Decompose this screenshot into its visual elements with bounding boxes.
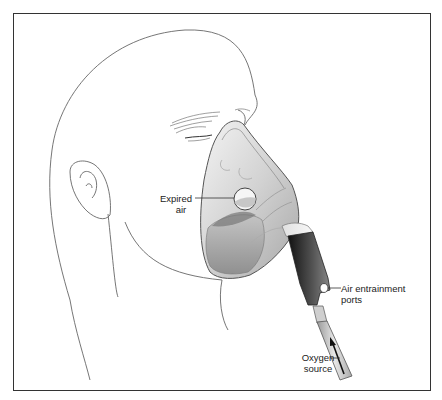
label-oxygen-source-line1: Oxygen [300,352,336,363]
air-entrainment-port [320,284,328,293]
label-expired-air: Expired air [156,193,196,215]
label-oxygen-source: Oxygen source [300,352,336,374]
label-expired-air-line2: air [156,204,196,215]
label-air-entrainment-ports: Air entrainment ports [341,283,405,305]
ear [70,161,110,219]
label-air-entrainment-line1: Air entrainment [341,283,405,294]
label-expired-air-line1: Expired [156,193,196,204]
label-air-entrainment-line2: ports [341,294,405,305]
label-oxygen-source-line2: source [300,363,336,374]
venturi-dark-tube [288,232,330,305]
exhalation-port [234,188,256,210]
venturi-mask-illustration [0,0,442,400]
